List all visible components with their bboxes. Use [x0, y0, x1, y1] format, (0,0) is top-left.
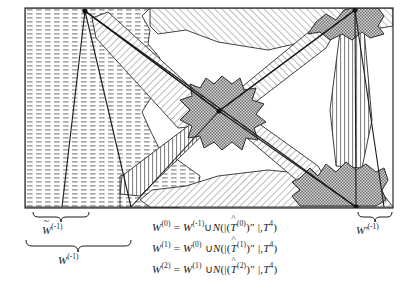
top-left-vertex-dot [82, 8, 87, 13]
diagram-canvas [0, 0, 418, 298]
figure-root: ~W(-1) W(-1) W′(-1) W(0) = W(-1)∪N(|(^T(… [0, 0, 418, 298]
center-vertex-dot [216, 108, 221, 113]
